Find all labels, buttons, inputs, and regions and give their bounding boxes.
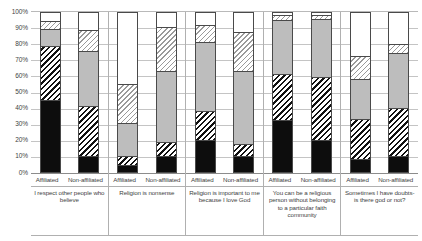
bar-segment[interactable]: [234, 72, 253, 144]
bar-segment[interactable]: [273, 75, 292, 121]
bar-segment[interactable]: [157, 143, 176, 156]
bar-segment[interactable]: [41, 30, 60, 47]
bar-segment[interactable]: [79, 107, 98, 156]
bar-segment[interactable]: [118, 13, 137, 85]
plot-area: [31, 11, 418, 174]
bar-segment[interactable]: [79, 157, 98, 173]
stacked-bar[interactable]: [117, 12, 138, 173]
bar-segment[interactable]: [196, 13, 215, 26]
y-axis-tick-label: 60%: [15, 72, 28, 79]
stacked-bar[interactable]: [388, 12, 409, 173]
x-axis-subcategory-row: AffiliatedNon-affiliated: [31, 173, 108, 187]
bar-segment[interactable]: [234, 33, 253, 73]
y-axis-tick-label: 100%: [12, 8, 28, 15]
stacked-bar[interactable]: [78, 12, 99, 173]
bar-segment[interactable]: [157, 28, 176, 72]
bar-segment[interactable]: [41, 22, 60, 31]
y-axis-tick-label: 30%: [15, 120, 28, 127]
bar-segment[interactable]: [234, 13, 253, 33]
bar-segment[interactable]: [312, 13, 331, 16]
bar-segment[interactable]: [389, 157, 408, 173]
bar-segment[interactable]: [196, 43, 215, 112]
stacked-bar[interactable]: [40, 12, 61, 173]
y-axis-tick-label: 80%: [15, 40, 28, 47]
bar-segment[interactable]: [196, 26, 215, 43]
bar-segment[interactable]: [273, 16, 292, 22]
bar-group: [264, 12, 342, 173]
x-axis-group: AffiliatedNon-affiliatedReligion is impo…: [186, 173, 264, 235]
bar-segment[interactable]: [118, 85, 137, 123]
bar-segment[interactable]: [351, 57, 370, 80]
bar-segment[interactable]: [157, 157, 176, 173]
bar-segment[interactable]: [312, 20, 331, 78]
bar-segment[interactable]: [389, 54, 408, 109]
x-axis-subcategory-label: Affiliated: [36, 176, 59, 183]
bar-segment[interactable]: [234, 145, 253, 157]
x-axis-subcategory-label: Non-affiliated: [145, 176, 180, 183]
x-axis-subcategory-label: Affiliated: [269, 176, 292, 183]
bar-segment[interactable]: [234, 157, 253, 173]
bar-segment[interactable]: [196, 112, 215, 141]
bar-segment[interactable]: [351, 120, 370, 160]
bar-segment[interactable]: [273, 21, 292, 75]
x-axis-subcategory-label: Non-affiliated: [301, 176, 336, 183]
bar-segment[interactable]: [312, 78, 331, 141]
bar-segment[interactable]: [79, 52, 98, 107]
y-axis-tick-label: 20%: [15, 136, 28, 143]
bar-segment[interactable]: [351, 160, 370, 172]
bar-segment[interactable]: [351, 80, 370, 120]
bar-group: [31, 12, 109, 173]
bar-segment[interactable]: [389, 45, 408, 54]
x-axis-subcategory-label: Non-affiliated: [378, 176, 413, 183]
x-axis-subcategory-row: AffiliatedNon-affiliated: [109, 173, 186, 187]
x-axis-subcategory-label: Non-affiliated: [223, 176, 258, 183]
bar-segment[interactable]: [389, 13, 408, 45]
x-axis-question-label: Religion is important to me because I lo…: [186, 187, 263, 235]
bar-groups: [31, 12, 418, 173]
x-axis-question-label: I respect other people who believe: [31, 187, 108, 235]
bar-segment[interactable]: [351, 13, 370, 57]
bar-segment[interactable]: [196, 141, 215, 172]
stacked-bar[interactable]: [311, 12, 332, 173]
bar-segment[interactable]: [118, 157, 137, 166]
bar-group: [186, 12, 264, 173]
x-axis-subcategory-label: Affiliated: [191, 176, 214, 183]
y-axis-tick-label: 10%: [15, 152, 28, 159]
bar-segment[interactable]: [118, 166, 137, 172]
y-axis-tick-label: 40%: [15, 104, 28, 111]
bar-segment[interactable]: [41, 101, 60, 172]
y-axis: 100%90%80%70%60%50%40%30%20%10%0%: [0, 4, 30, 180]
bar-segment[interactable]: [273, 121, 292, 172]
x-axis-labels: AffiliatedNon-affiliatedI respect other …: [31, 173, 418, 235]
bar-segment[interactable]: [157, 13, 176, 28]
bar-segment[interactable]: [79, 31, 98, 52]
x-axis-subcategory-label: Non-affiliated: [68, 176, 103, 183]
x-axis-subcategory-label: Affiliated: [113, 176, 136, 183]
y-axis-tick-label: 0%: [19, 169, 28, 176]
bar-segment[interactable]: [79, 13, 98, 31]
bar-segment[interactable]: [118, 124, 137, 158]
y-axis-tick-label: 70%: [15, 56, 28, 63]
stacked-bar[interactable]: [272, 12, 293, 173]
bar-segment[interactable]: [273, 13, 292, 16]
bar-segment[interactable]: [312, 141, 331, 172]
x-axis-subcategory-row: AffiliatedNon-affiliated: [341, 173, 418, 187]
x-axis-group: AffiliatedNon-affiliatedReligion is nons…: [109, 173, 187, 235]
stacked-bar[interactable]: [233, 12, 254, 173]
x-axis-question-label: You can be a religious person without be…: [264, 187, 341, 235]
bar-group: [109, 12, 187, 173]
bar-group: [341, 12, 418, 173]
bar-segment[interactable]: [312, 16, 331, 20]
stacked-bar-chart: 100%90%80%70%60%50%40%30%20%10%0% Affili…: [0, 0, 422, 241]
stacked-bar[interactable]: [350, 12, 371, 173]
bar-segment[interactable]: [41, 13, 60, 22]
stacked-bar[interactable]: [156, 12, 177, 173]
x-axis-group: AffiliatedNon-affiliatedI respect other …: [31, 173, 109, 235]
x-axis-subcategory-row: AffiliatedNon-affiliated: [264, 173, 341, 187]
bar-segment[interactable]: [157, 72, 176, 143]
x-axis-bottom-rule: [31, 235, 418, 236]
stacked-bar[interactable]: [195, 12, 216, 173]
bar-segment[interactable]: [389, 109, 408, 157]
bar-segment[interactable]: [41, 47, 60, 101]
x-axis-subcategory-label: Affiliated: [346, 176, 369, 183]
